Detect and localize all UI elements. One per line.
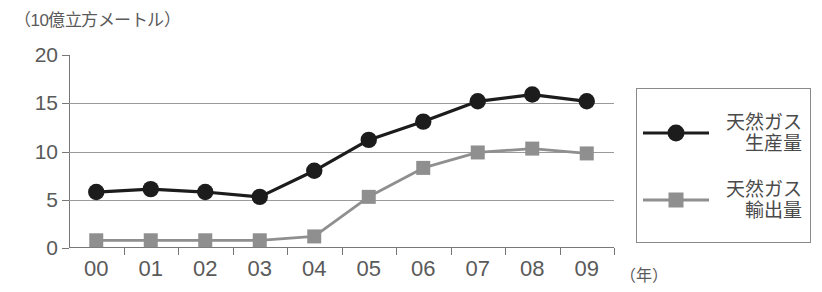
x-axis-tick — [451, 248, 452, 255]
data-point-circle — [579, 93, 595, 109]
x-axis-tick — [614, 248, 615, 255]
data-point-circle — [88, 184, 104, 200]
legend-label-export-line2: 輸出量 — [709, 200, 802, 221]
y-axis-tick — [62, 55, 69, 56]
x-axis-tick-label: 09 — [575, 256, 599, 282]
y-axis-tick — [62, 200, 69, 201]
data-point-circle — [252, 189, 268, 205]
series-production — [88, 86, 595, 205]
series-line — [96, 95, 587, 197]
data-point-square — [198, 233, 212, 247]
x-axis-tick — [287, 248, 288, 255]
chart-legend: 天然ガス 生産量 天然ガス 輸出量 — [636, 88, 811, 243]
y-axis-tick-label: 10 — [35, 140, 58, 164]
data-point-circle — [197, 184, 213, 200]
x-axis-tick — [178, 248, 179, 255]
legend-item-export: 天然ガス 輸出量 — [637, 169, 810, 231]
legend-label-production: 天然ガス 生産量 — [709, 112, 810, 155]
x-axis-tick-label: 05 — [357, 256, 381, 282]
data-point-circle — [470, 93, 486, 109]
data-point-square — [471, 145, 485, 159]
x-axis-tick-label: 07 — [466, 256, 490, 282]
x-axis-tick-label: 02 — [193, 256, 217, 282]
data-point-square — [362, 190, 376, 204]
data-point-square — [307, 229, 321, 243]
plot-area: 05101520 00010203040506070809 — [69, 55, 614, 248]
legend-marker-circle-icon — [643, 118, 709, 148]
x-axis-unit-label: （年） — [620, 262, 668, 286]
legend-label-export: 天然ガス 輸出量 — [709, 179, 810, 222]
x-axis-tick — [342, 248, 343, 255]
data-point-square — [580, 146, 594, 160]
data-point-square — [253, 233, 267, 247]
natural-gas-line-chart: （10億立方メートル） 05101520 0001020304050607080… — [0, 0, 822, 292]
legend-marker-square-icon — [643, 185, 709, 215]
x-axis-tick-label: 08 — [520, 256, 544, 282]
x-axis-tick — [124, 248, 125, 255]
y-axis-tick-label: 15 — [35, 91, 58, 115]
x-axis-tick — [233, 248, 234, 255]
y-axis-tick-label: 20 — [35, 43, 58, 67]
x-axis-tick-label: 06 — [411, 256, 435, 282]
x-axis-tick-label: 01 — [139, 256, 163, 282]
y-axis-tick — [62, 248, 69, 249]
x-axis-tick-label: 00 — [84, 256, 108, 282]
series-line — [96, 149, 587, 241]
x-axis-tick-label: 04 — [302, 256, 326, 282]
data-point-circle — [524, 86, 540, 102]
data-point-square — [525, 142, 539, 156]
data-point-square — [416, 161, 430, 175]
y-axis-unit-label: （10億立方メートル） — [14, 6, 180, 31]
x-axis-tick — [396, 248, 397, 255]
data-point-square — [89, 233, 103, 247]
legend-label-export-line1: 天然ガス — [726, 179, 802, 200]
series-export — [89, 142, 594, 248]
legend-label-production-line1: 天然ガス — [726, 112, 802, 133]
data-point-circle — [361, 132, 377, 148]
y-axis-tick — [62, 103, 69, 104]
legend-label-production-line2: 生産量 — [709, 133, 802, 154]
y-axis-tick-label: 5 — [46, 188, 58, 212]
legend-item-production: 天然ガス 生産量 — [637, 102, 810, 164]
x-axis-tick — [560, 248, 561, 255]
data-point-circle — [415, 113, 431, 129]
x-axis-tick-label: 03 — [248, 256, 272, 282]
data-point-square — [144, 233, 158, 247]
series-layer — [69, 55, 614, 248]
data-point-circle — [143, 181, 159, 197]
y-axis-tick-label: 0 — [46, 236, 58, 260]
data-point-circle — [306, 163, 322, 179]
x-axis-tick — [505, 248, 506, 255]
y-axis-tick — [62, 152, 69, 153]
